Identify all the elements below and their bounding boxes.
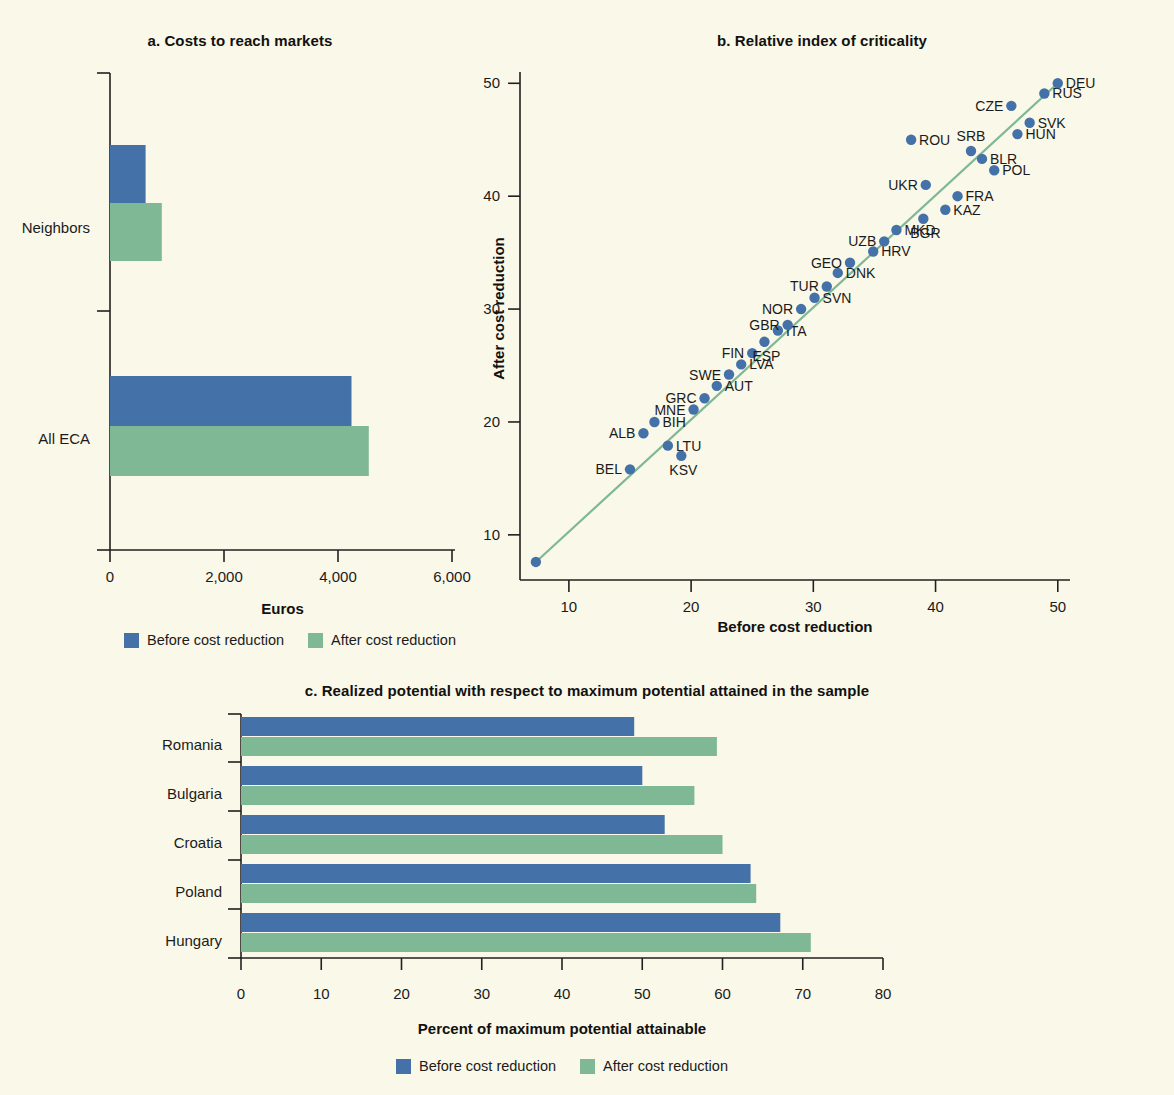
panel-c-xlabel: Percent of maximum potential attainable [241,1020,883,1037]
panel-b-ytick-label: 10 [483,526,500,543]
scatter-point [676,451,686,461]
legend-label-before: Before cost reduction [147,632,284,648]
panel-c-ycat-romania: Romania [100,736,222,753]
panel-a-xtick-4000: 4,000 [308,568,368,585]
panel-c-xtick-label: 30 [452,985,512,1002]
panel-a-ycat-alleca: All ECA [0,430,90,447]
panel-c-xtick-label: 80 [853,985,913,1002]
bar-bulgaria-before [241,766,642,785]
bar-hungary-after [241,933,811,952]
scatter-point [1024,118,1034,128]
bar-alleca-before [110,376,352,426]
bar-alleca-after [110,426,369,476]
scatter-point-label: AUT [725,378,753,394]
panel-c-ycat-bulgaria: Bulgaria [100,785,222,802]
panel-c-xtick-label: 60 [693,985,753,1002]
scatter-point [966,146,976,156]
scatter-point-label: FRA [966,188,995,204]
panel-a-legend: Before cost reduction After cost reducti… [110,632,470,648]
scatter-point-label: BEL [596,461,623,477]
panel-c-xtick-label: 50 [612,985,672,1002]
scatter-point [879,236,889,246]
bar-bulgaria-after [241,786,694,805]
scatter-point-label: SVK [1038,115,1067,131]
panel-b-relative-index-of-criticality: b. Relative index of criticality 1020304… [470,0,1174,660]
bar-romania-before [241,717,634,736]
scatter-point-label: GEO [811,255,842,271]
scatter-point [891,225,901,235]
panel-b-title: b. Relative index of criticality [470,32,1174,49]
panel-b-xtick-label: 50 [1049,598,1066,615]
scatter-point-label: POL [1002,162,1030,178]
scatter-point [1053,78,1063,88]
scatter-point [625,464,635,474]
scatter-point-label: SRB [957,128,986,144]
scatter-point [699,393,709,403]
panel-c-ycat-poland: Poland [100,883,222,900]
scatter-point [649,417,659,427]
scatter-point [918,214,928,224]
panel-c-legend: Before cost reduction After cost reducti… [241,1058,883,1074]
scatter-point-label: SWE [689,367,721,383]
bar-hungary-before [241,913,780,932]
panel-c-realized-potential: c. Realized potential with respect to ma… [0,660,1174,1095]
scatter-point [989,165,999,175]
panel-c-title: c. Realized potential with respect to ma… [0,682,1174,699]
scatter-point [940,205,950,215]
scatter-point-label: CZE [975,98,1003,114]
scatter-point-label: ESP [752,348,780,364]
panel-b-ytick-label: 50 [483,74,500,91]
scatter-point-label: SVN [823,290,852,306]
scatter-point-label: FIN [722,345,745,361]
panel-c-xtick-label: 40 [532,985,592,1002]
scatter-point-label: GRC [665,390,696,406]
panel-c-ycat-croatia: Croatia [100,834,222,851]
legend-label-before-c: Before cost reduction [419,1058,556,1074]
scatter-point [724,369,734,379]
bar-poland-before [241,864,751,883]
scatter-point-label: BGR [910,225,940,241]
legend-item-before-c: Before cost reduction [396,1058,556,1074]
bar-neighbors-after [110,203,162,261]
scatter-point [1012,129,1022,139]
scatter-point [1006,101,1016,111]
panel-b-xtick-label: 30 [805,598,822,615]
scatter-point-label: UKR [888,177,918,193]
legend-swatch-before-c [396,1059,411,1074]
bar-croatia-after [241,835,723,854]
legend-swatch-after [308,633,323,648]
scatter-point-label: ALB [609,425,635,441]
panel-b-xtick-label: 10 [561,598,578,615]
panel-b-ylabel: After cost reduction [490,194,507,424]
panel-c-xtick-label: 0 [211,985,271,1002]
scatter-point [845,258,855,268]
panel-b-fit-line [536,81,1060,562]
bar-poland-after [241,884,756,903]
panel-c-xtick-label: 10 [291,985,351,1002]
legend-item-before: Before cost reduction [124,632,284,648]
scatter-point-label: TUR [790,278,819,294]
scatter-point [759,337,769,347]
panel-a-costs-to-reach-markets: a. Costs to reach markets Neighbors All … [0,0,480,660]
panel-b-xtick-label: 20 [683,598,700,615]
legend-label-after: After cost reduction [331,632,456,648]
bar-romania-after [241,737,717,756]
legend-swatch-before [124,633,139,648]
scatter-point [663,440,673,450]
scatter-point [906,135,916,145]
scatter-point [977,154,987,164]
scatter-point-label: GBR [749,317,779,333]
scatter-point [638,428,648,438]
scatter-point [1039,88,1049,98]
panel-c-xtick-label: 70 [773,985,833,1002]
panel-a-ycat-neighbors: Neighbors [0,219,90,236]
scatter-point [531,557,541,567]
panel-a-plot [0,60,480,590]
scatter-point [822,281,832,291]
legend-swatch-after-c [580,1059,595,1074]
scatter-point-label: NOR [762,301,793,317]
panel-b-xtick-label: 40 [927,598,944,615]
bar-neighbors-before [110,145,146,203]
panel-b-plot: 1020304050 1020304050 BELALBBIHLTUKSVMNE… [470,50,1174,610]
scatter-point [782,320,792,330]
